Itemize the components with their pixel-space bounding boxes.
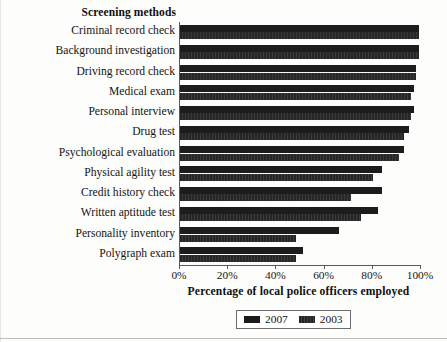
- category-label: Criminal record check: [0, 24, 175, 38]
- legend-label-2007: 2007: [265, 313, 288, 325]
- chart-legend: 2007 2003: [236, 310, 351, 329]
- x-tick-label: 100%: [398, 269, 442, 281]
- category-label: Medical exam: [0, 85, 175, 99]
- category-label: Polygraph exam: [0, 247, 175, 261]
- legend-entry-2007: 2007: [244, 313, 288, 325]
- category-label: Driving record check: [0, 65, 175, 79]
- x-tick-label: 80%: [350, 269, 394, 281]
- bar-chart-figure: Screening methods Criminal record checkB…: [0, 0, 447, 342]
- plot-area: [179, 22, 421, 265]
- x-tick-label: 0%: [157, 269, 201, 281]
- x-tick-label: 40%: [253, 269, 297, 281]
- category-label: Background investigation: [0, 44, 175, 58]
- legend-swatch-2003: [299, 316, 315, 323]
- category-axis-title: Screening methods: [0, 6, 176, 18]
- category-label: Psychological evaluation: [0, 146, 175, 160]
- x-axis-line: [179, 265, 421, 266]
- legend-entry-2003: 2003: [299, 313, 343, 325]
- legend-swatch-2007: [244, 316, 260, 323]
- x-tick-label: 20%: [205, 269, 249, 281]
- category-label: Personal interview: [0, 105, 175, 119]
- category-label: Physical agility test: [0, 166, 175, 180]
- x-axis-title: Percentage of local police officers empl…: [150, 285, 447, 298]
- category-label: Written aptitude test: [0, 206, 175, 220]
- legend-label-2003: 2003: [320, 313, 343, 325]
- scan-edge-bottom: [0, 338, 447, 339]
- category-label: Personality inventory: [0, 227, 175, 241]
- category-label: Credit history check: [0, 186, 175, 200]
- category-label: Drug test: [0, 125, 175, 139]
- x-tick-label: 60%: [302, 269, 346, 281]
